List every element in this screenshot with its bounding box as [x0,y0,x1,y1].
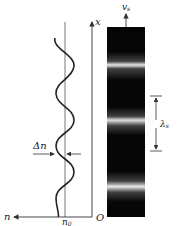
index-modulation-wave [55,38,74,217]
diagram-canvas: x n O n0 Δn vs λs [0,0,178,226]
x-axis-label: x [95,16,101,27]
fringe-pattern-bar [107,27,145,217]
delta-n-label: Δn [32,140,47,151]
lambda-label: λs [159,119,169,129]
n-axis-label: n [4,211,10,222]
n0-label: n0 [62,217,72,226]
origin-label: O [96,212,104,223]
velocity-label: vs [122,2,130,12]
